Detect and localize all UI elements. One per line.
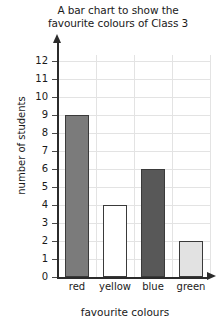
y-axis-tick-label: 12 [18,56,48,66]
chart-title: A bar chart to show the favourite colour… [18,4,218,30]
y-axis-tick-label: 0 [18,272,48,282]
y-axis-tick-mark [52,277,57,278]
x-axis-title: favourite colours [40,306,210,318]
gridline-vertical [210,55,211,277]
y-axis-tick-mark [52,151,57,152]
x-axis-line [57,277,208,279]
y-axis-tick-mark [52,61,57,62]
bar-yellow [103,205,127,277]
y-axis-tick-mark [52,187,57,188]
bar-green [179,241,203,277]
y-axis-tick-mark [52,205,57,206]
y-axis-tick-mark [52,223,57,224]
y-axis-line [57,42,59,278]
y-axis-title: number of students [16,81,27,211]
y-axis-tick-mark [52,133,57,134]
y-axis-tick-mark [52,115,57,116]
y-axis-tick-mark [52,241,57,242]
y-axis-tick-label: 1 [18,254,48,264]
x-axis-arrow-icon [207,272,216,280]
chart-title-line-2: favourite colours of Class 3 [18,17,218,30]
bar-chart-figure: A bar chart to show the favourite colour… [0,0,224,329]
bar-blue [141,169,165,277]
y-axis-tick-label: 2 [18,236,48,246]
y-axis-tick-mark [52,259,57,260]
gridline-vertical [96,55,97,277]
gridline-vertical [172,55,173,277]
y-axis-tick-mark [52,97,57,98]
y-axis-tick-mark [52,169,57,170]
gridline-vertical [134,55,135,277]
bar-red [65,115,89,277]
chart-title-line-1: A bar chart to show the [18,4,218,17]
y-axis-tick-label: 3 [18,218,48,228]
x-axis-label-green: green [161,281,221,292]
y-axis-tick-mark [52,79,57,80]
